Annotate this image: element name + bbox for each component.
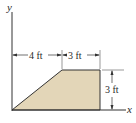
figure: 4 ft 3 ft 3 ft y x [0, 0, 136, 123]
arrow-icon [111, 105, 114, 110]
y-axis-label: y [6, 1, 12, 13]
diagram-svg: 4 ft 3 ft 3 ft y x [0, 0, 136, 123]
trapezoid-area [12, 70, 100, 110]
dimension-label: 3 ft [105, 84, 119, 95]
arrow-icon [111, 70, 114, 75]
arrow-icon [95, 54, 100, 57]
dimension-label: 3 ft [68, 50, 82, 61]
x-axis-label: x [126, 103, 132, 115]
arrow-icon [62, 54, 67, 57]
dimension-label: 4 ft [29, 50, 43, 61]
arrow-icon [57, 54, 62, 57]
arrow-icon [12, 54, 17, 57]
